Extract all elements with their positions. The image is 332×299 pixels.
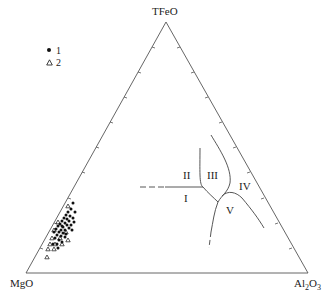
legend: 1 2 bbox=[44, 44, 61, 68]
triangle-axes bbox=[26, 22, 308, 273]
region-label-i: I bbox=[184, 193, 188, 204]
filled-circle-icon bbox=[44, 47, 54, 53]
legend-item-1: 1 bbox=[44, 44, 61, 56]
right-edge-ticks bbox=[177, 47, 292, 249]
al2o3-sub-3: 3 bbox=[317, 283, 321, 292]
series-2-points bbox=[45, 204, 70, 259]
legend-item-2: 2 bbox=[44, 56, 61, 68]
vertex-label-mgo: MgO bbox=[10, 278, 33, 289]
region-label-v: V bbox=[226, 205, 234, 216]
legend-label-2: 2 bbox=[56, 57, 61, 68]
open-triangle-icon bbox=[44, 59, 54, 66]
al2o3-o: O bbox=[309, 277, 317, 289]
left-edge-ticks bbox=[40, 47, 155, 249]
vertex-label-al2o3: Al2O3 bbox=[294, 278, 321, 292]
vertex-label-tfeo: TFeO bbox=[152, 6, 178, 17]
al2o3-al: Al bbox=[294, 277, 305, 289]
region-label-iv: IV bbox=[239, 181, 251, 192]
region-label-ii: II bbox=[183, 170, 190, 181]
region-label-iii: III bbox=[207, 170, 218, 181]
legend-label-1: 1 bbox=[56, 45, 61, 56]
